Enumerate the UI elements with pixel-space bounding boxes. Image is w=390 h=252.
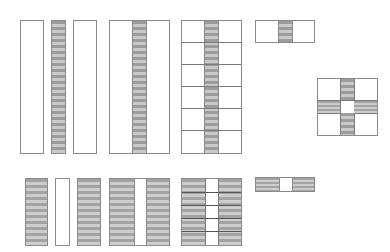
single-row-white-center xyxy=(255,177,315,192)
grid-5-rows-white-center xyxy=(181,178,242,246)
striped-left-column xyxy=(182,179,205,245)
striped-right-cell xyxy=(293,178,314,191)
cross-top-arm xyxy=(340,79,355,101)
white-strip-wide-2 xyxy=(73,20,97,154)
striped-left-column xyxy=(110,179,134,245)
cross-right-arm xyxy=(354,100,377,114)
white-center-column xyxy=(134,179,147,245)
row-divider xyxy=(182,205,241,206)
striped-center-cell xyxy=(278,21,293,42)
striped-right-column xyxy=(219,179,241,245)
striped-center-column xyxy=(204,21,219,153)
striped-strip-wide-1 xyxy=(25,178,48,246)
striped-center-column xyxy=(132,21,147,153)
striped-strip-narrow xyxy=(51,20,66,154)
white-center-cell xyxy=(279,178,293,191)
white-block-with-striped-center xyxy=(109,20,170,154)
white-center-column xyxy=(205,179,219,245)
row-divider xyxy=(182,192,241,193)
striped-right-column xyxy=(147,179,169,245)
white-strip-wide-1 xyxy=(20,20,44,154)
row-divider xyxy=(182,231,241,232)
cross-center-white xyxy=(340,100,355,114)
row-divider xyxy=(182,130,241,131)
single-row-striped-center xyxy=(255,20,315,43)
white-strip-narrow xyxy=(55,178,70,246)
row-divider xyxy=(182,64,241,65)
row-divider xyxy=(182,42,241,43)
row-divider xyxy=(182,218,241,219)
cross-left-arm xyxy=(318,100,341,114)
grid-6-rows-striped-center xyxy=(181,20,242,154)
row-divider xyxy=(182,108,241,109)
striped-left-cell xyxy=(256,178,279,191)
row-divider xyxy=(182,86,241,87)
striped-block-with-white-center xyxy=(109,178,170,246)
cross-bottom-arm xyxy=(340,113,355,135)
cross-pattern xyxy=(317,78,378,136)
striped-strip-wide-2 xyxy=(77,178,101,246)
